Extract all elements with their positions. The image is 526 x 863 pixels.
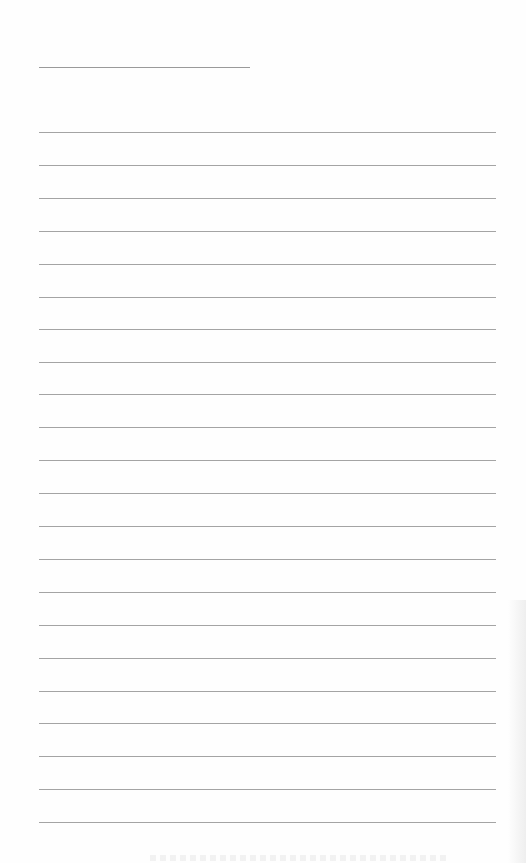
ruled-line <box>39 789 496 790</box>
page-edge-shadow <box>508 600 526 863</box>
ruled-line <box>39 658 496 659</box>
ruled-line <box>39 526 496 527</box>
title-line <box>39 67 250 68</box>
ruled-line <box>39 362 496 363</box>
ruled-line <box>39 264 496 265</box>
show-through-marks-top <box>0 2 526 14</box>
ruled-line <box>39 559 496 560</box>
ruled-line <box>39 822 496 823</box>
ruled-line <box>39 723 496 724</box>
ruled-line <box>39 756 496 757</box>
ruled-line <box>39 493 496 494</box>
ruled-line <box>39 394 496 395</box>
show-through-marks-bottom <box>150 855 450 861</box>
ruled-line <box>39 691 496 692</box>
ruled-line <box>39 297 496 298</box>
lined-paper-page <box>0 0 526 863</box>
ruled-line <box>39 132 496 133</box>
ruled-line <box>39 165 496 166</box>
ruled-line <box>39 329 496 330</box>
ruled-line <box>39 231 496 232</box>
ruled-line <box>39 427 496 428</box>
ruled-line <box>39 625 496 626</box>
ruled-line <box>39 198 496 199</box>
ruled-line <box>39 592 496 593</box>
ruled-line <box>39 460 496 461</box>
